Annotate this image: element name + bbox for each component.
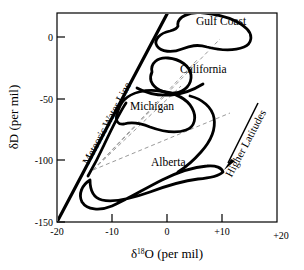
y-tick-label-minus100: -100 — [35, 155, 53, 166]
alberta-label: Alberta — [151, 156, 185, 168]
y-axis-title: δD (per mil) — [6, 85, 21, 150]
isotope-cross-plot-figure: 0 -50 -100 -150 -20 -10 0 +10 +20 δ18O (… — [0, 0, 304, 270]
gulf-coast-label: Gulf Coast — [196, 15, 247, 27]
y-tick-label-0: 0 — [48, 32, 53, 43]
plot-frame — [57, 13, 277, 222]
chart-svg: 0 -50 -100 -150 -20 -10 0 +10 +20 δ18O (… — [0, 0, 304, 270]
x-axis-title-main: O (per mil) — [145, 246, 203, 261]
y-tick-label-minus50: -50 — [40, 94, 53, 105]
x-tick-label-plus10: +10 — [214, 226, 230, 237]
michigan-label: Michigan — [130, 100, 174, 113]
x-tick-label-plus20: +20 — [273, 230, 289, 241]
california-label: California — [180, 63, 227, 75]
x-tick-label-0: 0 — [165, 226, 170, 237]
x-tick-label-minus20: -20 — [50, 226, 63, 237]
x-tick-label-minus10: -10 — [105, 226, 118, 237]
x-axis-title: δ18O (per mil) — [131, 246, 203, 261]
